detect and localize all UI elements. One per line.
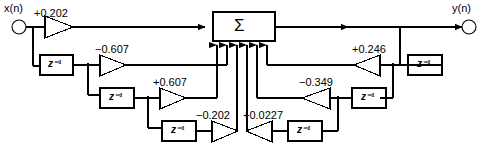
gain-triangle-5 (354, 55, 380, 76)
gain-triangle-4 (212, 121, 238, 142)
gain-triangle-7 (246, 121, 272, 142)
gain-triangle-1 (45, 16, 73, 38)
gain-label-4: −0.202 (196, 110, 230, 121)
gain-triangle-6 (302, 88, 330, 109)
gain-label-7: +0.0227 (243, 110, 283, 121)
delay-label-3: z⁻¹ (171, 125, 184, 135)
input-label: x(n) (4, 3, 23, 14)
signal-flow-diagram: x(n) y(n) Σ +0.202 −0.607 +0.607 −0.202 … (0, 0, 482, 157)
delay-label-1: z⁻¹ (48, 59, 61, 69)
gain-label-3: +0.607 (153, 77, 187, 88)
gain-triangle-3 (160, 88, 186, 109)
delay-label-5: z⁻¹ (361, 92, 374, 102)
output-label: y(n) (452, 3, 471, 14)
output-node-circle (462, 20, 476, 34)
gain-label-2: −0.607 (95, 44, 129, 55)
input-node-circle (12, 20, 26, 34)
gain-triangle-2 (100, 55, 126, 76)
gain-label-6: −0.349 (299, 77, 333, 88)
gain-label-5: +0.246 (352, 44, 386, 55)
summation-symbol: Σ (234, 17, 245, 34)
delay-label-4: z⁻¹ (417, 59, 430, 69)
delay-label-6: z⁻¹ (297, 125, 310, 135)
gain-label-1: +0.202 (34, 8, 68, 19)
delay-label-2: z⁻¹ (109, 92, 122, 102)
